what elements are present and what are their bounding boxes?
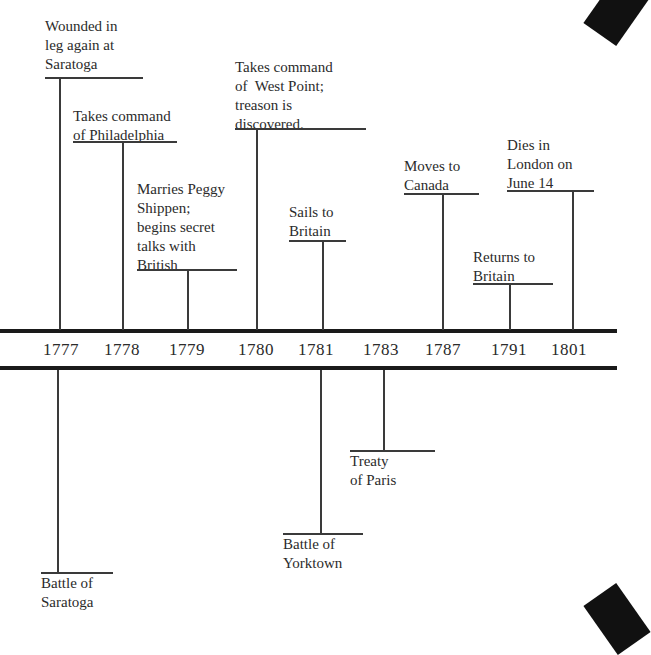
event-underline-1791-returns <box>473 283 553 285</box>
event-stem-1781-yorktown <box>320 370 322 534</box>
event-label-1781-yorktown: Battle of Yorktown <box>283 535 342 573</box>
event-stem-1781-sails <box>322 240 324 330</box>
event-label-1787-canada: Moves to Canada <box>404 157 460 195</box>
event-stem-1787-canada <box>442 193 444 330</box>
event-label-1778-philadelphia: Takes command of Philadelphia <box>73 107 171 145</box>
event-label-1801-dies: Dies in London on June 14 <box>507 136 572 193</box>
event-label-1779-marries: Marries Peggy Shippen; begins secret tal… <box>137 180 225 275</box>
event-stem-1779-marries <box>187 269 189 330</box>
event-label-1781-sails: Sails to Britain <box>289 203 334 241</box>
event-underline-1780-west-point <box>235 128 366 130</box>
event-stem-1783-paris <box>383 370 385 451</box>
year-label-1779: 1779 <box>169 340 205 360</box>
year-label-1801: 1801 <box>551 340 587 360</box>
event-label-1777-saratoga: Battle of Saratoga <box>41 574 93 612</box>
event-stem-1791-returns <box>509 283 511 330</box>
year-label-1781: 1781 <box>298 340 334 360</box>
event-label-1777-wounded: Wounded in leg again at Saratoga <box>45 17 118 74</box>
event-label-1780-west-point: Takes command of West Point; treason is … <box>235 58 333 134</box>
year-label-1783: 1783 <box>363 340 399 360</box>
timeline-axis-top <box>0 329 617 333</box>
event-underline-1781-sails <box>289 240 346 242</box>
event-stem-1801-dies <box>572 190 574 330</box>
event-stem-1778-philadelphia <box>122 141 124 330</box>
event-underline-1778-philadelphia <box>73 141 177 143</box>
corner-decoration-bottom <box>583 583 650 655</box>
corner-decoration-top <box>583 0 650 46</box>
event-label-1783-paris: Treaty of Paris <box>350 452 396 490</box>
timeline-axis-bottom <box>0 366 617 370</box>
year-label-1777: 1777 <box>43 340 79 360</box>
event-underline-1801-dies <box>507 190 594 192</box>
year-label-1791: 1791 <box>491 340 527 360</box>
event-stem-1780-west-point <box>256 128 258 330</box>
year-label-1780: 1780 <box>238 340 274 360</box>
event-label-1791-returns: Returns to Britain <box>473 248 535 286</box>
year-label-1787: 1787 <box>425 340 461 360</box>
event-stem-1777-saratoga <box>57 370 59 572</box>
event-stem-1777-wounded <box>59 77 61 330</box>
year-label-1778: 1778 <box>104 340 140 360</box>
